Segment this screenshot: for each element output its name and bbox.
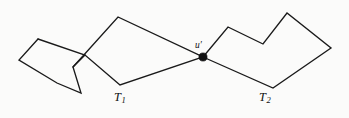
polygon-figure-svg bbox=[0, 0, 349, 118]
tree-t2-outline bbox=[203, 13, 331, 88]
vertex-u-prime-dot bbox=[199, 53, 207, 61]
left-quadrilateral-outline bbox=[19, 39, 85, 93]
label-t2: T2 bbox=[259, 91, 271, 104]
label-t2-subscript: 2 bbox=[266, 95, 271, 105]
label-t1-base: T bbox=[114, 90, 121, 104]
label-u-prime-text: u′ bbox=[195, 40, 202, 50]
label-t1: T1 bbox=[114, 91, 126, 104]
label-t2-base: T bbox=[259, 90, 266, 104]
tree-t1-outline bbox=[38, 17, 203, 85]
label-t1-subscript: 1 bbox=[121, 95, 126, 105]
label-u-prime: u′ bbox=[195, 41, 202, 51]
figure-container: u′ T1 T2 bbox=[0, 0, 349, 118]
